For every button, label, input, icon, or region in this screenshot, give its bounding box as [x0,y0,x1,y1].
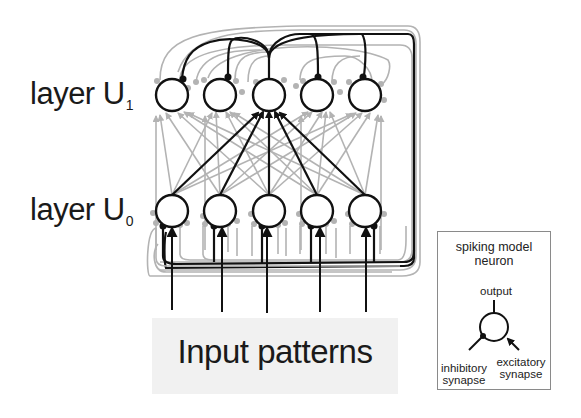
neuron-u0-5 [349,195,381,227]
neuron-u1-2 [204,79,236,111]
strong-inhibitory-bus-u0 [163,227,414,264]
legend-title: spiking model neuron [438,240,550,268]
strong-inhibitory-loops-u1 [165,34,415,268]
layer-u0-text: layer U [30,192,125,227]
neuron-u0-3 [253,195,285,227]
neuron-u0-4 [301,195,333,227]
legend-box: spiking model neuron output inhibitory s… [437,231,551,390]
layer-u0-label: layer U0 [30,192,133,229]
input-patterns-label: Input patterns [152,333,398,371]
neuron-u1-3 [253,79,285,111]
layer-u1-label: layer U1 [30,76,133,113]
legend-excitatory-label: excitatory synapse [492,356,550,380]
legend-inhibitory-label: inhibitory synapse [440,362,488,386]
layer-u0-subscript: 0 [126,213,133,229]
layer-u1-text: layer U [30,76,125,111]
neuron-u1-1 [156,79,188,111]
neuron-u1-5 [349,79,381,111]
neuron-u0-1 [156,195,188,227]
weak-lateral-loops-u0 [154,226,406,272]
legend-output-label: output [476,284,516,298]
neuron-u1-4 [301,79,333,111]
weak-lateral-loops-u1 [148,26,420,276]
layer-u1-subscript: 1 [126,97,133,113]
neuron-u0-2 [204,195,236,227]
